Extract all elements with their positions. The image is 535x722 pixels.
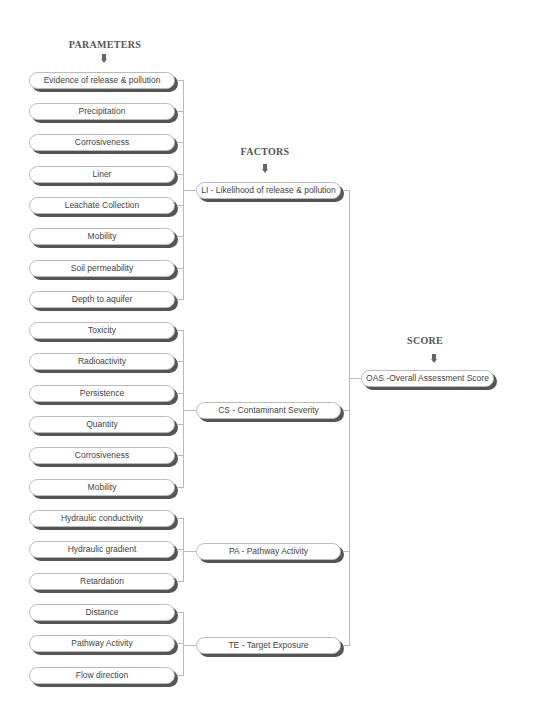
connector	[177, 268, 183, 269]
connector	[183, 330, 184, 488]
parameter-node: Persistence	[29, 385, 175, 402]
connector	[177, 455, 183, 456]
parameter-node: Pathway Activity	[29, 635, 175, 652]
parameter-node: Mobility	[29, 228, 175, 245]
parameter-node: Mobility	[29, 479, 175, 496]
parameter-node: Corrosiveness	[29, 134, 175, 151]
parameter-node: Depth to aquifer	[29, 291, 175, 308]
connector	[177, 142, 183, 143]
down-arrow-icon	[431, 354, 437, 363]
score-heading: SCORE	[390, 335, 460, 346]
connector	[177, 205, 183, 206]
parameter-node: Soil permeability	[29, 260, 175, 277]
connector	[343, 645, 349, 646]
score-node-oas: OAS -Overall Assessment Score	[361, 370, 494, 387]
parameter-node: Evidence of release & pollution	[29, 72, 175, 89]
parameter-node: Hydraulic conductivity	[29, 510, 175, 527]
connector	[183, 612, 184, 676]
connector	[177, 236, 183, 237]
connector	[343, 190, 349, 191]
factor-node-li: LI - Likelihood of release & pollution	[196, 182, 341, 199]
parameter-node: Flow direction	[29, 667, 175, 684]
connector	[183, 518, 184, 582]
connector	[343, 410, 349, 411]
connector	[183, 410, 196, 411]
parameter-node: Distance	[29, 604, 175, 621]
connector	[183, 190, 196, 191]
factor-node-te: TE - Target Exposure	[196, 637, 341, 654]
parameter-node: Corrosiveness	[29, 447, 175, 464]
connector	[177, 111, 183, 112]
parameter-node: Leachate Collection	[29, 197, 175, 214]
down-arrow-icon	[101, 54, 107, 63]
down-arrow-icon	[262, 164, 268, 173]
parameter-node: Retardation	[29, 573, 175, 590]
parameter-node: Precipitation	[29, 103, 175, 120]
connector	[177, 581, 183, 582]
connector	[177, 487, 183, 488]
parameter-node: Toxicity	[29, 322, 175, 339]
parameter-node: Quantity	[29, 416, 175, 433]
connector	[177, 424, 183, 425]
connector	[177, 518, 183, 519]
connector	[177, 675, 183, 676]
factor-node-pa: PA - Pathway Activity	[196, 543, 341, 560]
parameters-heading: PARAMETERS	[55, 39, 155, 50]
parameter-node: Hydraulic gradient	[29, 541, 175, 558]
connector	[177, 643, 183, 644]
connector	[177, 80, 183, 81]
connector	[177, 174, 183, 175]
connector	[177, 361, 183, 362]
connector	[183, 551, 196, 552]
connector	[177, 549, 183, 550]
connector	[343, 551, 349, 552]
connector	[177, 299, 183, 300]
connector	[177, 330, 183, 331]
parameter-node: Radioactivity	[29, 353, 175, 370]
factors-heading: FACTORS	[225, 146, 305, 157]
connector	[183, 645, 196, 646]
parameter-node: Liner	[29, 166, 175, 183]
connector	[177, 393, 183, 394]
connector	[349, 378, 361, 379]
factor-node-cs: CS - Contaminant Severity	[196, 402, 341, 419]
connector	[177, 612, 183, 613]
connector	[349, 190, 350, 646]
